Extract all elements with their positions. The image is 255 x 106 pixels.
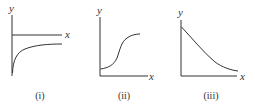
graph-ii-x-label: x xyxy=(148,70,154,82)
graph-ii-curve xyxy=(101,34,141,69)
graph-i-y-label: y xyxy=(8,2,14,14)
graph-iii-curve xyxy=(182,27,239,71)
caption-i: (i) xyxy=(35,90,44,102)
caption-ii: (ii) xyxy=(118,90,130,102)
graph-iii-y-label: y xyxy=(177,6,183,18)
graph-ii: y x xyxy=(96,4,154,82)
graph-iii-x-label: x xyxy=(239,70,245,82)
graph-iii: y x xyxy=(177,6,245,82)
graph-i: y x xyxy=(8,2,70,76)
graph-i-curve xyxy=(13,44,63,73)
graph-ii-y-label: y xyxy=(96,4,102,16)
graphs-figure: y x y x y x (i) (ii) (iii) xyxy=(0,0,255,106)
graph-i-x-label: x xyxy=(64,28,70,40)
caption-iii: (iii) xyxy=(204,90,219,102)
